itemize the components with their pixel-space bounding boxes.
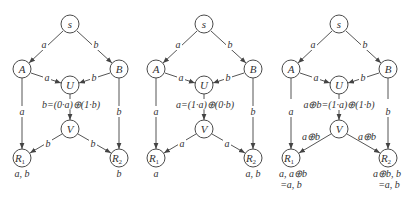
butterfly-network-diagram-2: a=(1·a)⊕(0·b) a b a b a b a a s A B U V … xyxy=(147,15,262,179)
sink-R2-received: a, b xyxy=(246,168,261,179)
edge-label-A-U: a xyxy=(45,72,50,83)
sink-R1-received: a, a⊕b xyxy=(279,168,307,179)
sink-R1-received: a, b xyxy=(15,168,30,179)
edge-label-V-R1: a⊕b xyxy=(302,131,320,142)
coding-equation: a=(1·a)⊕(0·b) xyxy=(176,99,235,111)
node-label-A: A xyxy=(287,63,295,75)
edge-label-B-U: b xyxy=(226,72,231,83)
edge-label-s-B: b xyxy=(228,39,233,50)
edge-label-s-B: b xyxy=(94,39,99,50)
node-label-B: B xyxy=(116,63,123,75)
edge-label-s-A: a xyxy=(42,39,47,50)
edge-label-A-R1: a xyxy=(289,106,294,117)
edge-label-V-R2: b xyxy=(91,138,96,149)
butterfly-network-diagram-3: a⊕b=(1·a)⊕(1·b) a b a b a b a⊕b a⊕b s A … xyxy=(279,15,401,190)
coding-equation: a⊕b=(1·a)⊕(1·b) xyxy=(303,99,375,111)
node-label-s: s xyxy=(68,18,72,30)
edge-label-V-R1: a xyxy=(180,138,185,149)
sink-R2-decoded: =a, b xyxy=(378,179,400,190)
sink-R2-received: a⊕b, b xyxy=(373,168,401,179)
node-label-B: B xyxy=(250,63,257,75)
node-label-U: U xyxy=(335,79,344,91)
edge-label-B-R2: b xyxy=(251,106,256,117)
node-label-s: s xyxy=(337,18,341,30)
node-label-A: A xyxy=(18,63,26,75)
butterfly-network-diagram-1: b=(0·a)⊕(1·b) a b a b a b b b s A B U V … xyxy=(13,15,128,179)
edge-label-s-A: a xyxy=(176,39,181,50)
sink-R2-received: b xyxy=(117,168,122,179)
sink-R1-decoded: =a, b xyxy=(280,179,302,190)
edge-label-V-R1: b xyxy=(46,138,51,149)
edge-label-s-B: b xyxy=(363,39,368,50)
edge-label-B-R2: b xyxy=(117,106,122,117)
edge-label-B-R2: b xyxy=(386,106,391,117)
edge-label-s-A: a xyxy=(311,39,316,50)
edge-label-V-R2: a⊕b xyxy=(358,131,376,142)
edge-label-A-U: a xyxy=(179,72,184,83)
edge-label-A-R1: a xyxy=(20,106,25,117)
edge-label-B-U: b xyxy=(361,72,366,83)
network-coding-figure: b=(0·a)⊕(1·b) a b a b a b b b s A B U V … xyxy=(0,0,416,198)
node-label-U: U xyxy=(66,79,75,91)
coding-equation: b=(0·a)⊕(1·b) xyxy=(42,99,101,111)
edge-label-B-U: b xyxy=(92,72,97,83)
edge-label-V-R2: a xyxy=(225,138,230,149)
node-label-B: B xyxy=(385,63,392,75)
edge-label-A-R1: a xyxy=(154,106,159,117)
edge-label-A-U: a xyxy=(314,72,319,83)
node-label-s: s xyxy=(202,18,206,30)
node-label-U: U xyxy=(200,79,209,91)
sink-R1-received: a xyxy=(154,168,159,179)
node-label-A: A xyxy=(152,63,160,75)
